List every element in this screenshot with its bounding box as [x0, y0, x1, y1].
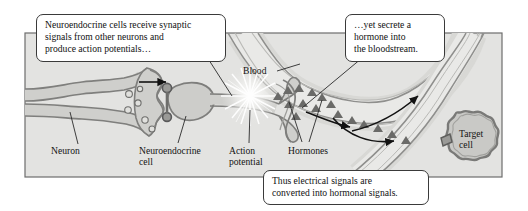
callout-secretion: …yet secrete a hormone into the bloodstr… [345, 14, 445, 62]
label-blood: Blood [243, 65, 266, 76]
label-neuroendocrine-cell: Neuroendocrine cell [139, 145, 201, 168]
label-action-potential: Action potential [229, 145, 263, 168]
figure-canvas: Neuroendocrine cells receive synaptic si… [0, 0, 528, 211]
label-target-cell: Target cell [459, 128, 483, 151]
callout-conclusion: Thus electrical signals are converted in… [263, 170, 429, 205]
callout-synaptic-input: Neuroendocrine cells receive synaptic si… [36, 14, 226, 62]
label-hormones: Hormones [288, 145, 328, 156]
label-neuron: Neuron [51, 145, 80, 156]
